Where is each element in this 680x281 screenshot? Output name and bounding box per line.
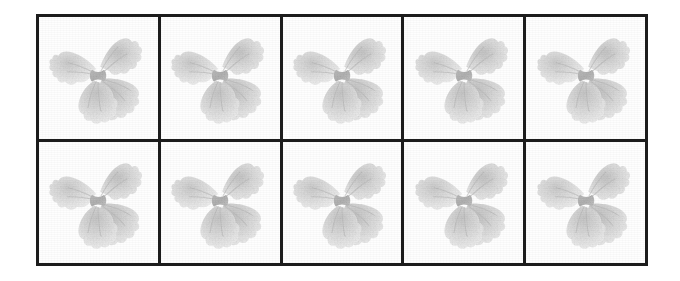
pasta-cell-r1c2[interactable]: Farfalle (bow-tie) pasta xyxy=(158,17,280,139)
farfalle-pasta-icon xyxy=(291,23,393,132)
pasta-cell-r2c3[interactable]: Farfalle (bow-tie) pasta xyxy=(280,142,402,264)
pasta-image-grid: Farfalle (bow-tie) pasta Farfalle (bow-t… xyxy=(36,14,648,266)
farfalle-pasta-icon xyxy=(169,23,271,132)
pasta-image-r2c5 xyxy=(526,142,645,264)
pasta-image-r2c3 xyxy=(283,142,402,264)
pasta-cell-r2c5[interactable]: Farfalle (bow-tie) pasta xyxy=(523,142,645,264)
pasta-cell-r1c3[interactable]: Farfalle (bow-tie) pasta xyxy=(280,17,402,139)
farfalle-pasta-icon xyxy=(535,23,637,132)
farfalle-pasta-icon xyxy=(413,148,515,257)
pasta-cell-r2c4[interactable]: Farfalle (bow-tie) pasta xyxy=(401,142,523,264)
farfalle-pasta-icon xyxy=(47,148,149,257)
farfalle-pasta-icon xyxy=(47,23,149,132)
pasta-image-r1c3 xyxy=(283,17,402,139)
pasta-cell-r1c4[interactable]: Farfalle (bow-tie) pasta xyxy=(401,17,523,139)
pasta-cell-r2c2[interactable]: Farfalle (bow-tie) pasta xyxy=(158,142,280,264)
pasta-image-r2c1 xyxy=(39,142,158,264)
farfalle-pasta-icon xyxy=(535,148,637,257)
pasta-cell-r1c1[interactable]: Farfalle (bow-tie) pasta xyxy=(39,17,158,139)
pasta-image-r2c4 xyxy=(404,142,523,264)
farfalle-pasta-icon xyxy=(291,148,393,257)
farfalle-pasta-icon xyxy=(413,23,515,132)
pasta-cell-r2c1[interactable]: Farfalle (bow-tie) pasta xyxy=(39,142,158,264)
pasta-image-r1c1 xyxy=(39,17,158,139)
farfalle-pasta-icon xyxy=(169,148,271,257)
grid-row-1: Farfalle (bow-tie) pasta Farfalle (bow-t… xyxy=(39,17,645,142)
pasta-image-r2c2 xyxy=(161,142,280,264)
pasta-cell-r1c5[interactable]: Farfalle (bow-tie) pasta xyxy=(523,17,645,139)
grid-row-2: Farfalle (bow-tie) pasta Farfalle (bow-t… xyxy=(39,142,645,264)
pasta-image-r1c5 xyxy=(526,17,645,139)
pasta-image-r1c2 xyxy=(161,17,280,139)
pasta-image-r1c4 xyxy=(404,17,523,139)
page-root: Farfalle (bow-tie) pasta Farfalle (bow-t… xyxy=(0,0,680,281)
